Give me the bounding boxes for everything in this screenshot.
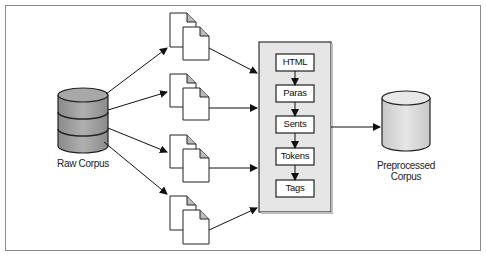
source-arrows (104, 48, 167, 194)
preprocessed-corpus-label: Preprocessed Corpus (370, 160, 442, 182)
raw-corpus-database-icon (58, 88, 108, 153)
preprocessed-corpus-database-icon (382, 91, 430, 151)
pipeline-diagram (0, 0, 486, 256)
step-tokens: Tokens (276, 148, 314, 164)
step-sents: Sents (276, 116, 314, 132)
preprocessed-label-line1: Preprocessed (370, 160, 442, 171)
raw-corpus-label: Raw Corpus (53, 158, 113, 169)
step-paras: Paras (276, 85, 314, 101)
document-icons (170, 13, 209, 244)
step-tags: Tags (276, 180, 314, 196)
step-html: HTML (276, 54, 314, 70)
preprocessed-label-line2: Corpus (370, 171, 442, 182)
document-arrows (209, 48, 257, 230)
